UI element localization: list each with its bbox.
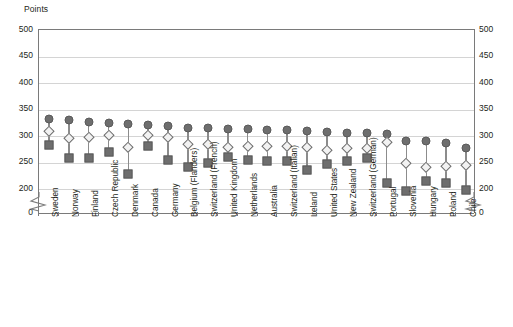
x-category-label: Switzerland (French) (210, 141, 219, 217)
x-tick-mark (98, 212, 99, 216)
data-marker-lower (164, 155, 173, 164)
data-marker-upper (64, 116, 73, 125)
x-tick-mark (455, 212, 456, 216)
x-category-label: New Zealand (349, 169, 358, 217)
data-marker-lower (104, 148, 113, 157)
data-marker-upper (422, 137, 431, 146)
y-tick-label-right: 250 (479, 156, 512, 166)
data-marker-lower (124, 170, 133, 179)
axis-break-icon (29, 192, 51, 212)
data-marker-middle (83, 132, 94, 143)
x-tick-mark (157, 212, 158, 216)
data-marker-upper (283, 126, 292, 135)
x-tick-mark (396, 212, 397, 216)
x-tick-mark (78, 212, 79, 216)
y-tick-label-right: 200 (479, 183, 512, 193)
x-category-label: Poland (449, 192, 458, 218)
data-marker-upper (323, 127, 332, 136)
x-category-label: Hungary (429, 186, 438, 217)
y-tick-label-left: 250 (0, 156, 33, 166)
data-marker-middle (63, 132, 74, 143)
x-tick-mark (296, 212, 297, 216)
data-marker-middle (103, 130, 114, 141)
data-marker-upper (442, 139, 451, 148)
x-tick-mark (356, 212, 357, 216)
y-tick-label-left: 450 (0, 50, 33, 60)
data-marker-lower (342, 156, 351, 165)
data-marker-upper (84, 118, 93, 127)
data-marker-upper (223, 124, 232, 133)
x-category-label: United States (330, 168, 339, 217)
data-marker-upper (303, 126, 312, 135)
data-marker-middle (242, 141, 253, 152)
x-category-label: Norway (71, 189, 80, 217)
data-marker-middle (381, 137, 392, 148)
data-marker-middle (401, 157, 412, 168)
x-category-label: Finland (91, 190, 100, 217)
y-tick-label-left: 350 (0, 103, 33, 113)
data-marker-upper (243, 125, 252, 134)
x-tick-mark (336, 212, 337, 216)
data-marker-lower (44, 141, 53, 150)
data-marker-upper (263, 125, 272, 134)
data-marker-upper (342, 128, 351, 137)
y-tick-label-right: 450 (479, 50, 512, 60)
x-category-label: Belgium (Flanders) (190, 148, 199, 217)
data-marker-upper (203, 124, 212, 133)
x-category-label: Canada (151, 188, 160, 217)
y-tick-label-left: 500 (0, 24, 33, 34)
data-marker-upper (44, 115, 53, 124)
data-marker-upper (124, 120, 133, 129)
data-marker-lower (442, 178, 451, 187)
data-marker-middle (461, 160, 472, 171)
y-tick-label-left: 200 (0, 183, 33, 193)
x-tick-mark (435, 212, 436, 216)
data-marker-lower (422, 177, 431, 186)
y-tick-label-right: 500 (479, 24, 512, 34)
data-marker-upper (462, 143, 471, 152)
x-category-label: Switzerland (German) (369, 137, 378, 217)
x-category-label: Denmark (131, 184, 140, 217)
x-tick-mark (177, 212, 178, 216)
data-marker-lower (64, 153, 73, 162)
data-marker-upper (144, 121, 153, 130)
x-tick-mark (38, 212, 39, 216)
axis-break-icon-right (464, 192, 486, 212)
data-marker-lower (323, 159, 332, 168)
x-category-label: Slovenia (409, 186, 418, 217)
x-tick-mark (137, 212, 138, 216)
x-tick-mark (257, 212, 258, 216)
data-marker-upper (164, 122, 173, 131)
x-tick-mark (217, 212, 218, 216)
x-tick-mark (475, 212, 476, 216)
x-category-label: Netherlands (250, 173, 259, 217)
y-tick-label-right: 350 (479, 103, 512, 113)
data-marker-lower (84, 153, 93, 162)
data-marker-middle (302, 142, 313, 153)
x-tick-mark (316, 212, 317, 216)
data-marker-lower (243, 156, 252, 165)
chart-root: Points 5004504003503002502000 5004504003… (0, 0, 513, 327)
data-marker-middle (163, 131, 174, 142)
data-marker-lower (144, 142, 153, 151)
data-marker-middle (143, 130, 154, 141)
data-marker-middle (44, 126, 55, 137)
x-category-label: Ireland (310, 192, 319, 217)
gridline (39, 110, 474, 111)
data-marker-lower (263, 157, 272, 166)
y-tick-label-left: 300 (0, 130, 33, 140)
y-tick-label-right: 300 (479, 130, 512, 140)
x-category-label: Sweden (51, 187, 60, 217)
x-category-label: Czech Republic (111, 160, 120, 217)
x-category-label: United Kingdom (230, 159, 239, 217)
data-marker-middle (262, 140, 273, 151)
x-category-label: Portugal (389, 187, 398, 218)
gridline (39, 83, 474, 84)
x-tick-mark (58, 212, 59, 216)
data-marker-upper (402, 136, 411, 145)
data-marker-middle (123, 142, 134, 153)
x-tick-mark (237, 212, 238, 216)
data-marker-middle (222, 141, 233, 152)
data-marker-lower (303, 165, 312, 174)
data-marker-middle (322, 144, 333, 155)
